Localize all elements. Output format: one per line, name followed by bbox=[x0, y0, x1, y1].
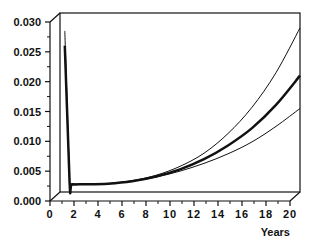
line-chart: 0.0000.0050.0100.0150.0200.0250.030 0246… bbox=[0, 0, 311, 248]
x-axis-label: Years bbox=[261, 226, 290, 238]
x-tick-label: 12 bbox=[187, 208, 201, 220]
x-tick-label: 10 bbox=[163, 208, 177, 220]
x-tick-label: 4 bbox=[94, 208, 101, 220]
y-tick-label: 0.005 bbox=[13, 165, 41, 177]
y-tick-label: 0.030 bbox=[13, 16, 41, 28]
y-tick-label: 0.010 bbox=[13, 135, 41, 147]
y-tick-label: 0.020 bbox=[13, 76, 41, 88]
y-tick-label: 0.000 bbox=[13, 195, 41, 207]
x-tick-label: 16 bbox=[235, 208, 249, 220]
x-tick-label: 14 bbox=[211, 208, 225, 220]
back-plane bbox=[60, 13, 300, 192]
x-tick-label: 0 bbox=[46, 208, 53, 220]
x-tick-label: 2 bbox=[70, 208, 77, 220]
y-tick-label: 0.015 bbox=[13, 106, 41, 118]
x-axis: 02468101214161820 bbox=[46, 201, 297, 220]
x-tick-label: 18 bbox=[259, 208, 273, 220]
y-tick-label: 0.025 bbox=[13, 46, 41, 58]
plot-series bbox=[65, 28, 300, 194]
x-tick-label: 8 bbox=[142, 208, 149, 220]
y-axis: 0.0000.0050.0100.0150.0200.0250.030 bbox=[13, 16, 50, 207]
series-line-central bbox=[65, 46, 300, 193]
x-tick-label: 20 bbox=[283, 208, 297, 220]
series-line-lower bbox=[65, 46, 300, 194]
x-tick-label: 6 bbox=[118, 208, 125, 220]
